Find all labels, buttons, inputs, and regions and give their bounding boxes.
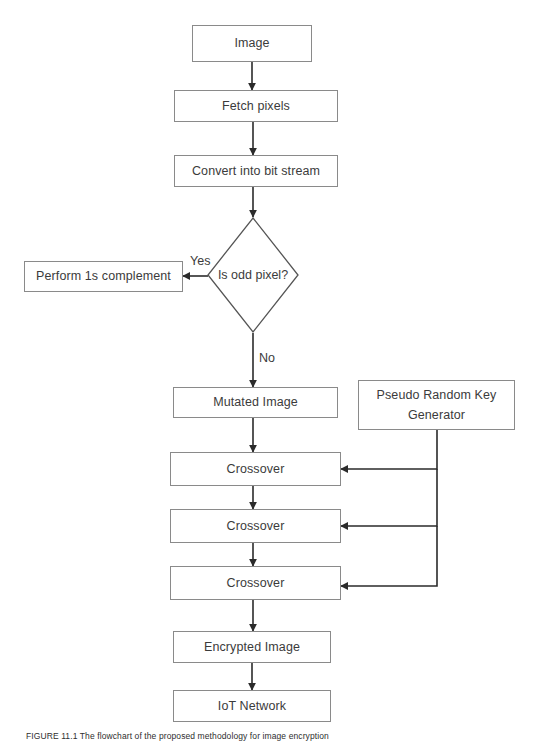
node-convert-bitstream[interactable]: Convert into bit stream [174, 155, 338, 187]
node-iot-network[interactable]: IoT Network [173, 690, 331, 722]
node-image-label: Image [234, 34, 269, 52]
node-encrypted-image-label: Encrypted Image [204, 638, 300, 656]
figure-caption: FIGURE 11.1 The flowchart of the propose… [26, 731, 526, 741]
node-prkg-label-line2: Generator [408, 406, 465, 424]
node-mutated-image[interactable]: Mutated Image [173, 387, 338, 418]
node-convert-bitstream-label: Convert into bit stream [192, 162, 320, 180]
node-iot-network-label: IoT Network [218, 697, 286, 715]
node-fetch-pixels-label: Fetch pixels [222, 97, 290, 115]
node-decision-label-line2: pixel? [255, 268, 288, 282]
node-crossover-3[interactable]: Crossover [170, 566, 341, 600]
node-decision-label-line1: Is odd [218, 268, 252, 282]
flowchart-canvas: Image Fetch pixels Convert into bit stre… [0, 0, 542, 743]
node-perform-ones-complement-label: Perform 1s complement [36, 267, 171, 285]
node-crossover-2[interactable]: Crossover [170, 509, 341, 543]
node-perform-ones-complement[interactable]: Perform 1s complement [24, 261, 183, 292]
node-fetch-pixels[interactable]: Fetch pixels [174, 90, 338, 122]
edge-label-no: No [258, 351, 276, 365]
node-crossover-1-label: Crossover [227, 460, 285, 478]
edge-prkg-to-crossover3 [341, 526, 437, 586]
node-crossover-2-label: Crossover [227, 517, 285, 535]
node-crossover-3-label: Crossover [227, 574, 285, 592]
node-pseudo-random-key-generator[interactable]: Pseudo Random Key Generator [358, 380, 515, 430]
edge-label-yes: Yes [189, 254, 211, 268]
node-encrypted-image[interactable]: Encrypted Image [173, 631, 331, 663]
node-crossover-1[interactable]: Crossover [170, 452, 341, 486]
edge-prkg-to-crossover2 [341, 469, 437, 526]
node-prkg-label-line1: Pseudo Random Key [377, 386, 497, 404]
edge-prkg-to-crossover1 [341, 430, 437, 469]
node-decision-label: Is odd pixel? [218, 266, 288, 285]
node-image[interactable]: Image [192, 25, 312, 62]
node-decision[interactable]: Is odd pixel? [208, 218, 298, 332]
node-mutated-image-label: Mutated Image [213, 393, 298, 411]
